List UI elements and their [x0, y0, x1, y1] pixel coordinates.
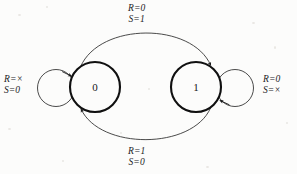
state-diagram-canvas: 0 1	[0, 0, 297, 174]
self-loop-label-state-0-line1: R=×	[4, 74, 23, 85]
transition-label-zero-to-one-line1: R=0	[128, 3, 145, 14]
self-loop-label-state-0-line2: S=0	[4, 85, 23, 96]
self-loop-arrowhead-state-1	[220, 100, 230, 104]
transition-label-zero-to-one-line2: S=1	[128, 14, 145, 25]
self-loop-label-state-1: R=0 S=×	[263, 74, 281, 95]
transition-arc-one-to-zero	[81, 108, 211, 140]
transition-label-one-to-zero-line1: R=1	[128, 146, 145, 157]
self-loop-label-state-1-line1: R=0	[263, 74, 281, 85]
transition-label-one-to-zero-line2: S=0	[128, 157, 145, 168]
transition-label-one-to-zero: R=1 S=0	[128, 146, 145, 167]
state-diagram-figure: 0 1 R=0 S=1 R=1 S=0 R=× S=0 R=0 S=×	[0, 0, 297, 174]
self-loop-arrowhead-state-0	[62, 72, 71, 77]
state-node-0-label: 0	[92, 81, 98, 93]
state-node-1-label: 1	[193, 81, 199, 93]
self-loop-label-state-1-line2: S=×	[263, 85, 281, 96]
self-loop-label-state-0: R=× S=0	[4, 74, 23, 95]
transition-label-zero-to-one: R=0 S=1	[128, 3, 145, 24]
